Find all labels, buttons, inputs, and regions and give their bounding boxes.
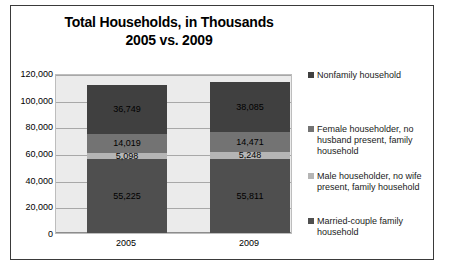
y-axis-tick-label: 80,000: [11, 122, 53, 132]
chart-container: Total Households, in Thousands 2005 vs. …: [10, 5, 434, 260]
bar-segment[interactable]: 36,749: [87, 85, 167, 134]
x-axis-tick-label: 2009: [209, 238, 289, 248]
legend-item-label: Nonfamily household: [317, 70, 401, 81]
bar-value-label: 55,225: [87, 191, 167, 201]
chart-title-line-2: 2005 vs. 2009: [19, 31, 319, 49]
bar-segment[interactable]: 5,098: [87, 153, 167, 160]
x-axis-tick-label: 2005: [86, 238, 166, 248]
bar-value-label: 55,811: [210, 191, 290, 201]
plot-area: 55,2255,09814,01936,74955,8115,24814,471…: [55, 74, 292, 234]
bar-value-label: 36,749: [87, 104, 167, 114]
y-axis: 120,000100,00080,00060,00040,00020,0000: [11, 74, 53, 234]
chart-title: Total Households, in Thousands 2005 vs. …: [19, 13, 319, 49]
bar-segment[interactable]: 55,225: [87, 159, 167, 233]
bar-segment[interactable]: 14,019: [87, 134, 167, 153]
chart-title-line-1: Total Households, in Thousands: [64, 14, 273, 30]
bar-stack[interactable]: 55,8115,24814,47138,085: [210, 73, 290, 233]
legend-item-label: Female householder, no husband present, …: [317, 124, 430, 157]
bar-segment[interactable]: 5,248: [210, 152, 290, 159]
bar-value-label: 14,471: [210, 137, 290, 147]
bar-value-label: 5,248: [210, 150, 290, 160]
legend-item[interactable]: Female householder, no husband present, …: [308, 124, 430, 157]
legend-item[interactable]: Male householder, no wife present, famil…: [308, 171, 430, 193]
legend-color-swatch-icon: [308, 126, 314, 132]
y-axis-tick-label: 20,000: [11, 202, 53, 212]
y-axis-tick-label: 120,000: [11, 69, 53, 79]
bar-value-label: 14,019: [87, 138, 167, 148]
legend-color-swatch-icon: [308, 218, 314, 224]
legend-item[interactable]: Nonfamily household: [308, 70, 430, 81]
bar-segment[interactable]: 38,085: [210, 82, 290, 133]
y-axis-tick-label: 60,000: [11, 149, 53, 159]
legend-item[interactable]: Married-couple family household: [308, 216, 430, 238]
y-axis-tick-label: 0: [11, 229, 53, 239]
y-axis-tick-label: 40,000: [11, 176, 53, 186]
bar-value-label: 38,085: [210, 102, 290, 112]
bar-segment[interactable]: 14,471: [210, 132, 290, 151]
legend-item-label: Male householder, no wife present, famil…: [317, 171, 430, 193]
legend-color-swatch-icon: [308, 72, 314, 78]
bar-stack[interactable]: 55,2255,09814,01936,749: [87, 73, 167, 233]
y-axis-tick-label: 100,000: [11, 96, 53, 106]
bar-segment[interactable]: 55,811: [210, 159, 290, 233]
legend-color-swatch-icon: [308, 173, 314, 179]
legend-item-label: Married-couple family household: [317, 216, 430, 238]
